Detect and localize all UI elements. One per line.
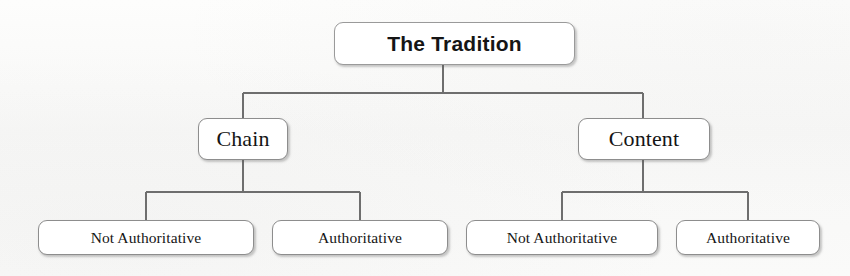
tradition-hierarchy-diagram: The Tradition Chain Content Not Authorit… (0, 0, 850, 276)
node-leaf-content-authoritative[interactable]: Authoritative (676, 220, 820, 255)
node-branch-chain[interactable]: Chain (198, 118, 288, 160)
node-root-the-tradition[interactable]: The Tradition (334, 22, 575, 65)
node-leaf-chain-not-authoritative[interactable]: Not Authoritative (38, 220, 254, 255)
node-leaf-chain-authoritative[interactable]: Authoritative (272, 220, 448, 255)
node-leaf-content-not-authoritative[interactable]: Not Authoritative (466, 220, 658, 255)
node-branch-content[interactable]: Content (578, 118, 710, 160)
